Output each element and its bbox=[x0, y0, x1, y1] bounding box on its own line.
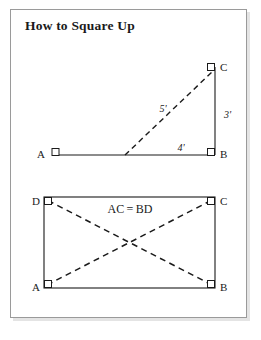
page-title: How to Square Up bbox=[25, 18, 135, 34]
page-root: How to Square Up A B C 5' 3' 4' bbox=[0, 0, 261, 340]
content-card: How to Square Up bbox=[10, 9, 247, 318]
